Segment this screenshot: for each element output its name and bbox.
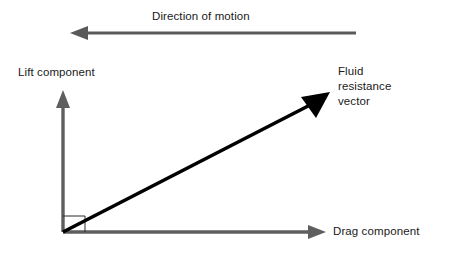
force-vector-diagram <box>0 0 456 257</box>
diagram-canvas: Direction of motion Lift component Fluid… <box>0 0 456 257</box>
lift-component-axis <box>56 90 70 232</box>
drag-axis-arrowhead <box>308 225 326 239</box>
drag-component-label: Drag component <box>333 224 419 239</box>
direction-of-motion-arrowhead <box>70 26 88 40</box>
lift-component-label: Lift component <box>18 65 95 80</box>
fluid-resistance-vector-arrowhead <box>301 92 330 118</box>
fluid-resistance-vector <box>63 92 330 232</box>
fluid-resistance-vector-label-line1: Fluid <box>338 65 363 77</box>
fluid-resistance-vector-label: Fluidresistancevector <box>338 64 391 109</box>
direction-of-motion-label: Direction of motion <box>152 9 250 24</box>
drag-component-axis <box>63 225 326 239</box>
lift-axis-arrowhead <box>56 90 70 108</box>
fluid-resistance-vector-label-line2: resistance <box>338 80 391 92</box>
fluid-resistance-vector-label-line3: vector <box>338 95 370 107</box>
direction-of-motion-arrow <box>70 26 356 40</box>
fluid-resistance-vector-shaft <box>63 104 312 232</box>
